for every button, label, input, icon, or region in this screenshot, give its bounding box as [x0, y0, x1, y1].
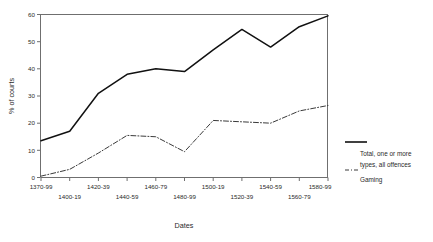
series-line-gaming	[41, 106, 328, 177]
x-tick-label: 1480-99	[173, 193, 196, 200]
x-tick-label: 1440-59	[116, 193, 139, 200]
y-axis-ticks: 0 10 20 30 40 50 60	[28, 11, 40, 181]
y-tick-30: 30	[28, 92, 40, 99]
chart-figure: 0 10 20 30 40 50 60	[0, 0, 433, 242]
x-tick-label: 1400-19	[58, 193, 81, 200]
y-tick-label: 50	[28, 38, 35, 45]
x-tick-label: 1420-39	[87, 183, 110, 190]
x-tick-label: 1520-39	[231, 193, 254, 200]
y-tick-20: 20	[28, 119, 40, 126]
chart-legend: Total, one or more types, all offences G…	[345, 142, 412, 184]
y-tick-50: 50	[28, 38, 40, 45]
x-tick-label: 1560-79	[288, 193, 311, 200]
y-tick-0: 0	[32, 174, 41, 181]
y-tick-label: 10	[28, 147, 35, 154]
y-tick-40: 40	[28, 65, 40, 72]
line-chart: 0 10 20 30 40 50 60	[0, 0, 433, 242]
series-group	[41, 16, 328, 176]
x-axis-ticks	[41, 178, 328, 182]
legend-label-total-line1: Total, one or more	[360, 150, 412, 157]
y-tick-label: 60	[28, 11, 35, 18]
x-tick-label: 1580-99	[309, 183, 332, 190]
y-tick-label: 20	[28, 119, 35, 126]
x-tick-label: 1500-19	[202, 183, 225, 190]
y-tick-label: 0	[32, 174, 36, 181]
y-tick-10: 10	[28, 147, 40, 154]
y-tick-label: 30	[28, 92, 35, 99]
y-axis-title: % of courts	[7, 78, 16, 114]
x-tick-label: 1540-59	[259, 183, 282, 190]
x-tick-label: 1370-99	[30, 183, 53, 190]
x-tick-label: 1460-79	[144, 183, 167, 190]
legend-label-gaming: Gaming	[360, 176, 383, 184]
x-axis-tick-labels: 1370-99 1400-19 1420-39 1440-59 1460-79 …	[30, 183, 332, 200]
plot-axes	[41, 14, 329, 178]
y-tick-label: 40	[28, 65, 35, 72]
legend-label-total-line2: types, all offences	[360, 161, 411, 169]
series-line-total	[41, 16, 328, 141]
x-axis-title: Dates	[175, 221, 194, 230]
y-tick-60: 60	[28, 11, 40, 18]
